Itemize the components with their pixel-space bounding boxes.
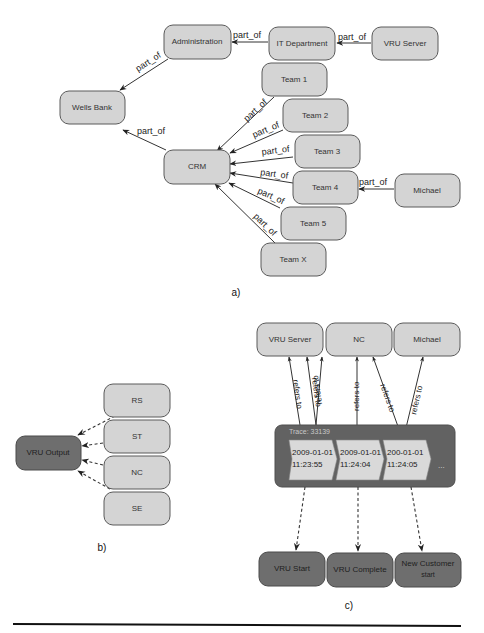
caption-c: c) — [345, 600, 353, 611]
trace-ellipsis: ... — [438, 461, 445, 470]
svg-text:Michael: Michael — [413, 335, 441, 344]
svg-text:VRU Complete: VRU Complete — [333, 565, 387, 574]
svg-text:SE: SE — [132, 504, 143, 513]
trace-container: Trace: 33139 2009-01-01 11:23:55 2009-01… — [275, 425, 455, 487]
node-team-5: Team 5 — [281, 207, 346, 240]
svg-text:Team 2: Team 2 — [302, 111, 329, 120]
svg-text:Team 3: Team 3 — [314, 147, 341, 156]
svg-text:200-01-01: 200-01-01 — [387, 448, 424, 457]
node-nc: NC — [104, 456, 170, 489]
svg-text:VRU Server: VRU Server — [384, 39, 427, 48]
diagram-a: part_of part_of part_of part_of part_of … — [60, 25, 460, 298]
edge-label: part_of — [251, 119, 281, 139]
edge-label: part_of — [338, 32, 367, 42]
svg-text:Team 4: Team 4 — [312, 183, 339, 192]
edge-label: refers to — [409, 384, 424, 415]
svg-text:IT Department: IT Department — [277, 39, 329, 48]
node-vru-complete: VRU Complete — [327, 553, 393, 587]
edge-label: part_of — [134, 50, 163, 74]
edge-label: refers to — [378, 383, 397, 414]
svg-text:Team 5: Team 5 — [300, 219, 327, 228]
svg-text:Team 1: Team 1 — [281, 75, 308, 84]
svg-text:Administration: Administration — [172, 37, 223, 46]
node-team-2: Team 2 — [283, 99, 348, 132]
svg-text:11:24:05: 11:24:05 — [387, 460, 418, 469]
edge-event1-vru-start — [296, 487, 305, 550]
edge-event3-new-customer — [411, 487, 422, 551]
edge-nc-output — [82, 460, 103, 465]
caption-b: b) — [98, 542, 107, 553]
node-team-1: Team 1 — [262, 63, 327, 96]
node-nc-c: NC — [326, 323, 392, 356]
node-vru-server-c: VRU Server — [257, 323, 323, 356]
svg-text:Michael: Michael — [413, 186, 441, 195]
edge-label: refers to — [291, 379, 304, 410]
caption-a: a) — [232, 287, 241, 298]
svg-text:New Customer: New Customer — [402, 559, 455, 568]
svg-text:NC: NC — [131, 468, 143, 477]
node-st: ST — [104, 420, 170, 453]
divider-rule — [13, 624, 461, 626]
node-team-3: Team 3 — [295, 135, 360, 168]
edge-label: part_of — [359, 177, 388, 187]
svg-text:NC: NC — [353, 335, 365, 344]
node-se: SE — [104, 492, 170, 525]
svg-text:Wells Bank: Wells Bank — [72, 103, 113, 112]
edge-label: part_of — [233, 30, 262, 40]
trace-title: Trace: 33139 — [289, 428, 330, 435]
edge-label: part_of — [137, 126, 166, 136]
edge-label: part_of — [261, 144, 291, 157]
svg-text:2009-01-01: 2009-01-01 — [292, 448, 333, 457]
edge-label: part_of — [242, 97, 270, 124]
svg-text:VRU Server: VRU Server — [269, 335, 312, 344]
trace-event-3: 200-01-01 11:24:05 — [383, 440, 431, 480]
edge-st-output — [82, 443, 103, 446]
node-new-customer-start: New Customer start — [395, 553, 461, 587]
node-vru-start: VRU Start — [259, 552, 325, 586]
node-vru-server: VRU Server — [372, 27, 438, 60]
node-administration: Administration — [164, 25, 231, 59]
node-it-department: IT Department — [269, 27, 335, 60]
svg-text:2009-01-01: 2009-01-01 — [340, 448, 381, 457]
node-vru-output: VRU Output — [16, 436, 81, 470]
svg-text:11:23:55: 11:23:55 — [292, 460, 323, 469]
edge-label: refers to — [352, 381, 361, 411]
node-crm: CRM — [164, 150, 230, 184]
svg-text:RS: RS — [131, 396, 142, 405]
node-michael: Michael — [395, 174, 460, 207]
edge-team3-crm — [230, 157, 293, 164]
node-wells-bank: Wells Bank — [60, 91, 125, 124]
svg-text:ST: ST — [132, 432, 142, 441]
node-team-x: Team X — [261, 243, 326, 276]
diagram-b: VRU Output RS ST NC SE b) — [16, 384, 170, 553]
node-rs: RS — [104, 384, 170, 417]
svg-text:Team X: Team X — [279, 255, 307, 264]
node-team-4: Team 4 — [293, 171, 358, 204]
svg-text:CRM: CRM — [188, 162, 207, 171]
figure-canvas: part_of part_of part_of part_of part_of … — [0, 0, 484, 633]
svg-text:VRU Output: VRU Output — [26, 448, 70, 457]
svg-text:start: start — [421, 571, 435, 578]
diagram-c: refers to refers to refers to refers to … — [257, 323, 461, 611]
svg-text:11:24:04: 11:24:04 — [340, 460, 371, 469]
svg-text:VRU Start: VRU Start — [274, 564, 311, 573]
node-michael-c: Michael — [394, 323, 460, 356]
trace-event-1: 2009-01-01 11:23:55 — [289, 440, 337, 480]
trace-event-2: 2009-01-01 11:24:04 — [336, 440, 384, 480]
